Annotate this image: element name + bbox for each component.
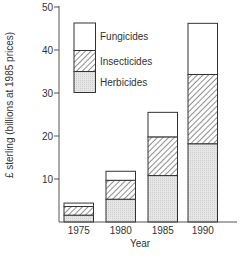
bar-segment-fungicides: [106, 171, 136, 180]
x-tick-label: 1985: [152, 225, 175, 236]
legend-swatch-fungicides: [74, 23, 96, 51]
legend-label-fungicides: Fungicides: [100, 31, 148, 42]
x-axis-label: Year: [130, 238, 151, 249]
bar-segment-insecticides: [64, 207, 94, 216]
legend-swatch-insecticides: [74, 51, 96, 72]
legend-swatch-herbicides: [74, 72, 96, 93]
x-tick-label: 1975: [68, 225, 91, 236]
bar-segment-fungicides: [64, 203, 94, 206]
bar-segment-herbicides: [188, 144, 218, 222]
bar-segment-herbicides: [148, 176, 178, 222]
legend: FungicidesInsecticidesHerbicides: [74, 23, 152, 93]
bar-segment-herbicides: [64, 215, 94, 222]
x-tick-label: 1980: [110, 225, 133, 236]
y-ticks: 1020304050: [42, 2, 59, 185]
bar-1975: [64, 203, 94, 222]
y-tick-label: 40: [42, 45, 54, 56]
bar-1980: [106, 171, 136, 222]
x-tick-labels: 1975198019851990: [68, 225, 215, 236]
bar-segment-herbicides: [106, 199, 136, 222]
legend-label-herbicides: Herbicides: [100, 77, 147, 88]
bar-1990: [188, 23, 218, 222]
x-tick-label: 1990: [192, 225, 215, 236]
bar-segment-insecticides: [188, 75, 218, 144]
bar-1985: [148, 112, 178, 222]
y-tick-label: 10: [42, 174, 54, 185]
bar-segment-insecticides: [106, 180, 136, 199]
bar-segment-fungicides: [188, 23, 218, 74]
y-tick-label: 50: [42, 2, 54, 13]
bar-segment-insecticides: [148, 137, 178, 176]
stacked-bar-chart: 1020304050 1975198019851990 Year Fungici…: [0, 0, 248, 260]
legend-label-insecticides: Insecticides: [100, 56, 152, 67]
y-tick-label: 30: [42, 88, 54, 99]
y-tick-label: 20: [42, 131, 54, 142]
bar-segment-fungicides: [148, 112, 178, 137]
y-axis-label: £ sterling (billions at 1985 prices): [4, 32, 15, 178]
